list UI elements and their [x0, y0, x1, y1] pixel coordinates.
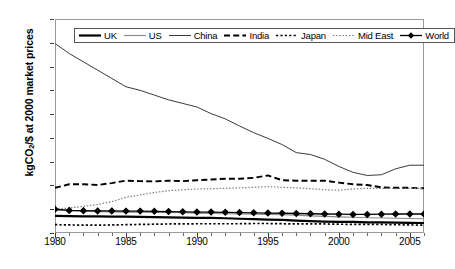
y-axis-label-prefix: kgCO	[23, 149, 35, 177]
series-marker-diamond	[407, 211, 413, 217]
legend-swatch-icon	[124, 31, 146, 40]
series-marker-diamond	[194, 209, 200, 215]
legend-label: World	[425, 31, 449, 41]
series-marker-diamond	[421, 211, 424, 217]
series-marker-diamond	[137, 208, 143, 214]
legend-label: India	[249, 31, 269, 41]
series-marker-diamond	[208, 209, 214, 215]
legend-entry-uk[interactable]: UK	[79, 31, 117, 41]
x-axis-tick-mark-minor	[381, 233, 382, 236]
x-axis-tick-mark-minor	[225, 233, 226, 236]
series-marker-diamond	[265, 210, 271, 216]
y-axis-tick-mark	[50, 90, 54, 91]
legend-swatch-icon	[224, 31, 246, 40]
series-uk	[55, 216, 424, 223]
series-marker-diamond	[251, 210, 257, 216]
x-axis-tick-mark-major	[55, 233, 56, 238]
x-axis-tick-mark-minor	[98, 233, 99, 236]
x-axis-tick-mark-major	[197, 233, 198, 238]
x-axis-tick-mark-minor	[396, 233, 397, 236]
series-marker-diamond	[95, 208, 101, 214]
legend-label: UK	[104, 31, 117, 41]
legend-label: US	[149, 31, 162, 41]
legend-swatch-icon	[276, 31, 298, 40]
chart-legend: UKUSChinaIndiaJapanMid EastWorld	[74, 28, 455, 43]
y-axis-tick-mark	[50, 114, 54, 115]
legend-entry-us[interactable]: US	[124, 31, 162, 41]
legend-entry-china[interactable]: China	[169, 31, 218, 41]
x-axis-tick-mark-major	[410, 233, 411, 238]
legend-swatch-icon	[400, 31, 422, 40]
x-axis-tick-mark-minor	[310, 233, 311, 236]
series-mid-east	[55, 187, 424, 210]
x-axis-tick-mark-major	[126, 233, 127, 238]
y-axis-label-suffix: /$ at 2000 market prices	[23, 29, 35, 145]
x-axis-tick-mark-minor	[83, 233, 84, 236]
series-china	[55, 43, 424, 175]
x-axis-tick-mark-minor	[112, 233, 113, 236]
y-axis-tick-mark	[50, 162, 54, 163]
y-axis-label-subscript: 2	[27, 145, 36, 149]
series-marker-diamond	[379, 211, 385, 217]
legend-label: Mid East	[358, 31, 393, 41]
series-marker-diamond	[364, 212, 370, 218]
x-axis-tick-mark-minor	[240, 233, 241, 236]
series-marker-diamond	[222, 209, 228, 215]
y-axis-tick-mark	[50, 185, 54, 186]
y-axis-tick-mark	[50, 43, 54, 44]
series-marker-diamond	[109, 208, 115, 214]
series-india	[55, 175, 424, 188]
x-axis-tick-mark-minor	[154, 233, 155, 236]
legend-label: China	[194, 31, 218, 41]
series-marker-diamond	[180, 209, 186, 215]
x-axis-tick-mark-minor	[169, 233, 170, 236]
legend-entry-world[interactable]: World	[400, 31, 449, 41]
x-axis-tick-mark-minor	[296, 233, 297, 236]
series-marker-diamond	[237, 210, 243, 216]
x-axis-tick-mark-minor	[325, 233, 326, 236]
series-marker-diamond	[166, 209, 172, 215]
series-lines	[55, 19, 424, 233]
legend-label: Japan	[301, 31, 326, 41]
legend-swatch-icon	[169, 31, 191, 40]
series-marker-diamond	[350, 212, 356, 218]
series-marker-diamond	[151, 208, 157, 214]
x-axis-tick-mark-major	[268, 233, 269, 238]
x-axis-tick-mark-minor	[254, 233, 255, 236]
y-axis-tick-mark	[50, 209, 54, 210]
x-axis-tick-mark-minor	[183, 233, 184, 236]
x-axis-tick-mark-minor	[69, 233, 70, 236]
y-axis-tick-mark	[50, 67, 54, 68]
legend-entry-india[interactable]: India	[224, 31, 269, 41]
x-axis-tick-mark-minor	[140, 233, 141, 236]
legend-swatch-icon	[79, 31, 101, 40]
series-marker-diamond	[55, 206, 58, 212]
y-axis-tick-mark	[50, 138, 54, 139]
x-axis-tick-mark-minor	[211, 233, 212, 236]
series-marker-diamond	[80, 208, 86, 214]
y-axis-tick-mark	[50, 233, 54, 234]
legend-entry-mid-east[interactable]: Mid East	[333, 31, 393, 41]
series-japan	[55, 223, 424, 225]
x-axis-tick-mark-minor	[353, 233, 354, 236]
y-axis-tick-mark	[50, 19, 54, 20]
series-marker-diamond	[393, 211, 399, 217]
series-marker-diamond	[123, 208, 129, 214]
legend-entry-japan[interactable]: Japan	[276, 31, 326, 41]
x-axis-tick-mark-minor	[367, 233, 368, 236]
x-axis-tick-mark-major	[339, 233, 340, 238]
plot-area	[55, 19, 424, 233]
x-axis-tick-mark-minor	[424, 233, 425, 236]
y-axis-label: kgCO2/$ at 2000 market prices	[23, 8, 36, 198]
x-axis-tick-mark-minor	[282, 233, 283, 236]
legend-swatch-icon	[333, 31, 355, 40]
